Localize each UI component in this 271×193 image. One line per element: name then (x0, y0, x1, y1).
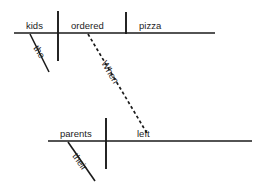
word-verb-ordered: ordered (71, 20, 104, 31)
word-object-pizza: pizza (139, 20, 162, 31)
subordinating-conjunction-dashed-line (88, 34, 148, 135)
main-clause-group: parents left their (48, 118, 252, 181)
word-subject-parents: parents (60, 128, 92, 139)
sentence-diagram: kids ordered pizza the When parents left… (0, 0, 271, 193)
connector-group: When (88, 34, 148, 135)
diagram-canvas: kids ordered pizza the When parents left… (0, 0, 271, 193)
word-subject-kids: kids (26, 20, 43, 31)
word-verb-left: left (137, 128, 150, 139)
word-conjunction-when: When (99, 58, 121, 85)
word-modifier-the: the (31, 43, 47, 60)
subordinate-clause-group: kids ordered pizza the (14, 11, 215, 72)
